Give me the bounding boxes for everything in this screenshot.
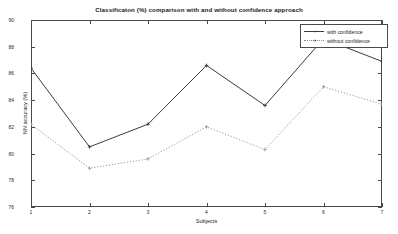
y-axis-label: NN accuracy (%) (22, 58, 28, 168)
series-line-0 (31, 39, 382, 147)
x-tick-mark (90, 203, 91, 207)
x-tick-label: 5 (255, 209, 275, 215)
y-tick-mark-right (378, 127, 382, 128)
x-tick-mark (265, 203, 266, 207)
y-tick-mark-right (378, 100, 382, 101)
x-tick-mark-top (90, 20, 91, 24)
data-point-marker (146, 157, 150, 161)
x-tick-label: 3 (138, 209, 158, 215)
x-tick-label: 4 (197, 209, 217, 215)
x-tick-label: 6 (314, 209, 334, 215)
x-tick-mark-top (265, 20, 266, 24)
legend-item-without-confidence[interactable]: + without confidence (303, 36, 385, 45)
x-tick-mark (148, 203, 149, 207)
x-tick-mark-top (207, 20, 208, 24)
x-axis-label: Subjects (31, 218, 382, 224)
y-tick-mark (31, 127, 35, 128)
y-axis-label-wrap: NN accuracy (%) (6, 20, 20, 207)
figure-canvas: Classificaton (%) comparison with and wi… (0, 0, 398, 234)
y-tick-mark-right (378, 154, 382, 155)
x-tick-mark (324, 203, 325, 207)
y-tick-mark (31, 73, 35, 74)
x-tick-mark (382, 203, 383, 207)
x-tick-label: 7 (372, 209, 392, 215)
data-point-marker (263, 148, 267, 152)
y-tick-mark-right (378, 180, 382, 181)
legend-line-dotted-icon: + (303, 37, 325, 45)
y-tick-mark (31, 47, 35, 48)
legend-item-with-confidence[interactable]: + with confidence (303, 27, 385, 36)
x-tick-label: 1 (21, 209, 41, 215)
data-point-marker (205, 125, 209, 129)
x-tick-mark (207, 203, 208, 207)
y-tick-mark (31, 180, 35, 181)
legend-line-solid-icon: + (303, 28, 325, 36)
x-tick-mark-top (148, 20, 149, 24)
x-tick-mark (31, 203, 32, 207)
chart-legend[interactable]: + with confidence + without confidence (300, 24, 388, 48)
data-point-marker (380, 102, 382, 106)
data-point-marker (380, 60, 382, 64)
x-tick-label: 2 (80, 209, 100, 215)
data-point-marker (88, 166, 92, 170)
legend-label-without-confidence: without confidence (327, 38, 370, 44)
y-tick-mark-right (378, 207, 382, 208)
data-point-marker (31, 122, 33, 126)
y-tick-mark-right (378, 73, 382, 74)
chart-title: Classificaton (%) comparison with and wi… (0, 6, 398, 13)
x-tick-mark-top (31, 20, 32, 24)
y-tick-mark (31, 154, 35, 155)
legend-label-with-confidence: with confidence (327, 29, 363, 35)
y-tick-mark (31, 207, 35, 208)
plot-data-layer (31, 20, 382, 207)
y-tick-mark (31, 100, 35, 101)
